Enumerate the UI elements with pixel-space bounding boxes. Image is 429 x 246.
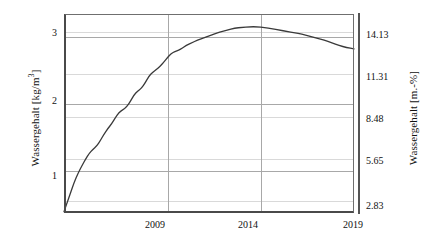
bottom-tick-label-2019: 2019 <box>330 219 376 230</box>
left-axis-title-text: Wassergehalt [kg/m <box>29 77 41 166</box>
left-axis-title-suffix: ] <box>29 70 41 74</box>
left-tick-label-3: 3 <box>17 27 57 38</box>
water-content-chart-figure: Wassergehalt [kg/m3] Wassergehalt [m.-%]… <box>0 0 429 246</box>
left-tick-label-1: 1 <box>17 170 57 181</box>
right-tick-label-2-83: 2.83 <box>366 200 410 211</box>
bottom-tick-label-2009: 2009 <box>132 219 178 230</box>
right-tick-label-5-65: 5.65 <box>366 155 410 166</box>
left-axis-title-exponent: 3 <box>27 73 36 77</box>
plot-border <box>64 14 354 213</box>
plot-area <box>64 14 354 213</box>
right-tick-label-8-48: 8.48 <box>366 113 410 124</box>
right-axis-spine <box>358 13 360 214</box>
right-tick-label-11-31: 11.31 <box>366 71 410 82</box>
bottom-tick-label-2014: 2014 <box>225 219 271 230</box>
left-tick-label-2: 2 <box>17 95 57 106</box>
right-tick-label-14-13: 14.13 <box>366 29 410 40</box>
